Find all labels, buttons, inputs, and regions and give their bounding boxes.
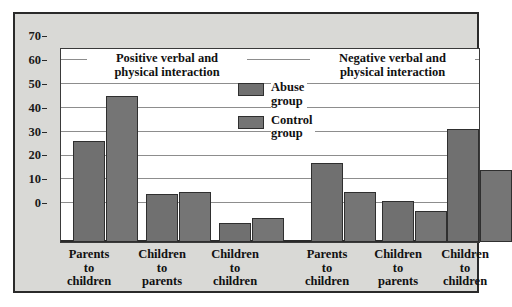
bar-control-5: [415, 211, 447, 242]
legend-label-abuse-line2: group: [271, 94, 303, 108]
y-tick-label-40: 40: [11, 102, 41, 115]
category-label-4-line1: Parents: [307, 247, 348, 261]
plot-area: Positive verbal and physical interaction…: [60, 48, 480, 243]
category-label-2-line3: parents: [142, 274, 182, 288]
section-title-negative-line2: physical interaction: [340, 65, 445, 79]
section-title-negative-line1: Negative verbal and: [339, 51, 446, 65]
category-label-5-line1: Children: [374, 247, 422, 261]
legend-label-control-line1: Control: [271, 113, 312, 127]
legend-swatch-control-group: [238, 116, 264, 129]
category-label-1-line3: children: [67, 274, 111, 288]
bar-control-3: [252, 218, 284, 242]
category-label-2: Children to parents: [124, 248, 200, 289]
y-tick-label-0: 0: [11, 197, 41, 210]
chart-outer-panel: 70 60 50 40 30 20 10 0: [13, 12, 479, 293]
legend-label-control-group: Control group: [271, 114, 315, 142]
y-tick-label-20: 20: [11, 149, 41, 162]
y-tick-mark-70: [42, 36, 47, 37]
category-label-4-line3: children: [305, 274, 349, 288]
category-label-3: Children to children: [197, 248, 273, 289]
category-label-5-line3: parents: [378, 274, 418, 288]
bar-abuse-1: [73, 141, 105, 242]
y-tick-mark-30: [42, 132, 47, 133]
bar-control-4: [344, 192, 376, 242]
chart-legend: Abuse group Control group: [238, 81, 315, 146]
category-label-1: Parents to children: [51, 248, 127, 289]
category-label-6-line1: Children: [441, 247, 489, 261]
y-tick-mark-20: [42, 155, 47, 156]
section-title-negative: Negative verbal and physical interaction: [310, 51, 475, 80]
section-title-positive: Positive verbal and physical interaction: [87, 51, 247, 80]
y-tick-label-30: 30: [11, 126, 41, 139]
section-title-positive-line2: physical interaction: [114, 65, 219, 79]
legend-label-abuse-group: Abuse group: [271, 81, 307, 109]
bar-abuse-3: [219, 223, 251, 242]
bar-control-6: [480, 170, 512, 242]
legend-item-control-group: Control group: [238, 114, 315, 142]
y-tick-label-50: 50: [11, 78, 41, 91]
bar-abuse-5: [382, 201, 414, 242]
legend-label-abuse-line1: Abuse: [271, 80, 304, 94]
category-label-5-line2: to: [393, 261, 403, 275]
y-tick-label-10: 10: [11, 173, 41, 186]
category-label-4-line2: to: [322, 261, 332, 275]
category-label-6: Children to children: [427, 248, 503, 289]
y-tick-mark-10: [42, 179, 47, 180]
y-tick-label-70: 70: [11, 30, 41, 43]
section-title-positive-line1: Positive verbal and: [116, 51, 218, 65]
bar-abuse-2: [146, 194, 178, 242]
category-label-3-line3: children: [213, 274, 257, 288]
legend-item-abuse-group: Abuse group: [238, 81, 315, 109]
y-tick-mark-60: [42, 60, 47, 61]
category-label-1-line1: Parents: [69, 247, 110, 261]
category-label-6-line2: to: [460, 261, 470, 275]
category-label-5: Children to parents: [360, 248, 436, 289]
category-label-3-line2: to: [230, 261, 240, 275]
category-label-1-line2: to: [84, 261, 94, 275]
bar-control-2: [179, 192, 211, 242]
bar-abuse-4: [311, 163, 343, 242]
y-tick-label-60: 60: [11, 54, 41, 67]
legend-swatch-abuse-group: [238, 83, 264, 96]
y-tick-mark-0: [42, 203, 47, 204]
bar-control-1: [106, 96, 138, 242]
category-label-2-line2: to: [157, 261, 167, 275]
category-label-6-line3: children: [443, 274, 487, 288]
category-label-2-line1: Children: [138, 247, 186, 261]
legend-label-control-line2: group: [271, 126, 303, 140]
y-tick-mark-50: [42, 84, 47, 85]
category-label-4: Parents to children: [289, 248, 365, 289]
category-label-3-line1: Children: [211, 247, 259, 261]
bar-abuse-6: [447, 129, 479, 242]
y-tick-mark-40: [42, 108, 47, 109]
